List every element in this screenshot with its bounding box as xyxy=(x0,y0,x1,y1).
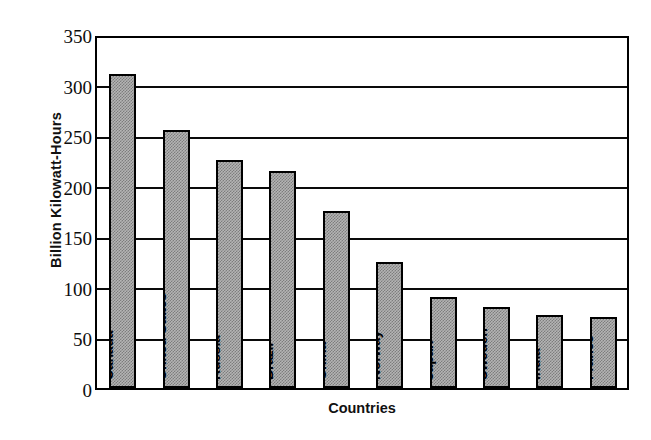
bar[interactable]: Norway xyxy=(376,262,403,388)
y-axis-tick-labels: 350300250200150100500 xyxy=(30,0,92,440)
bar[interactable]: Japan xyxy=(430,297,457,388)
bar[interactable]: Brazil xyxy=(269,171,296,388)
bar-category-label: Canada xyxy=(109,331,116,380)
bar-category-label: Norway xyxy=(376,331,383,380)
y-tick-label: 250 xyxy=(30,128,92,147)
bar-category-label: Russia xyxy=(216,335,223,380)
y-tick-label: 100 xyxy=(30,279,92,298)
bar-series: CanadaUnited StatesRussiaBrazilChinaNorw… xyxy=(97,38,627,388)
plot-area: CanadaUnited StatesRussiaBrazilChinaNorw… xyxy=(95,36,629,390)
bar[interactable]: Sweden xyxy=(483,307,510,388)
bar-category-label: France xyxy=(590,335,597,380)
bar[interactable]: France xyxy=(590,317,617,388)
y-tick-label: 300 xyxy=(30,77,92,96)
y-tick-label: 200 xyxy=(30,178,92,197)
bar-category-label: Brazil xyxy=(269,343,276,380)
bar[interactable]: China xyxy=(323,211,350,388)
bar-category-label: United States xyxy=(163,293,170,380)
bar[interactable]: India xyxy=(536,315,563,388)
y-tick-label: 0 xyxy=(30,381,92,400)
bar-chart: Billion Kilowatt-Hours 35030025020015010… xyxy=(0,0,651,440)
y-tick-label: 350 xyxy=(30,27,92,46)
bar-category-label: China xyxy=(323,342,330,380)
y-tick-label: 50 xyxy=(30,330,92,349)
y-tick-label: 150 xyxy=(30,229,92,248)
bar[interactable]: Canada xyxy=(109,74,136,388)
bar-category-label: Japan xyxy=(430,341,437,380)
x-axis-title: Countries xyxy=(95,400,629,416)
bar[interactable]: Russia xyxy=(216,160,243,388)
bar[interactable]: United States xyxy=(163,130,190,388)
bar-category-label: Sweden xyxy=(483,328,490,380)
bar-category-label: India xyxy=(536,348,543,380)
